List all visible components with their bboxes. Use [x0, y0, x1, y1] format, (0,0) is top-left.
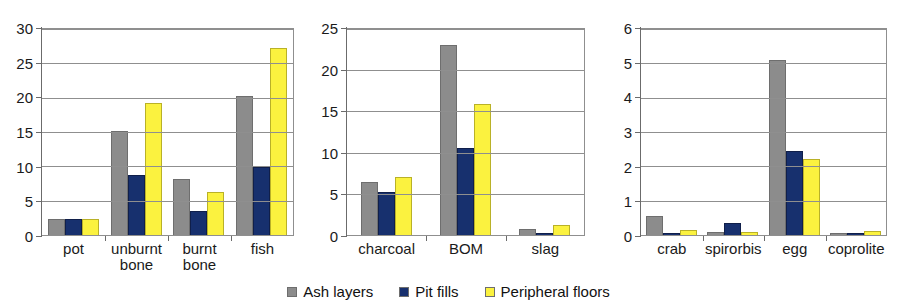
y-tick-mark — [36, 63, 41, 64]
bar — [190, 211, 207, 235]
x-axis-label: crab — [641, 241, 703, 257]
chart-panel-1: 051015202530 potunburnt boneburnt bonefi… — [0, 0, 305, 268]
x-axis-label: charcoal — [347, 241, 426, 257]
y-axis-line-1 — [41, 27, 42, 237]
gridline — [42, 29, 293, 30]
x-axis-label: egg — [764, 241, 826, 257]
bar — [48, 219, 65, 235]
y-tick-label: 3 — [624, 125, 632, 140]
bar — [830, 233, 847, 235]
bar — [646, 216, 663, 235]
x-axis-label: burnt bone — [168, 241, 231, 273]
bar-group — [505, 29, 584, 235]
bar — [270, 48, 287, 235]
y-tick-mark — [635, 167, 640, 168]
bar — [361, 182, 378, 235]
gridline — [641, 166, 886, 167]
gridline — [641, 201, 886, 202]
gridline — [641, 98, 886, 99]
y-tick-mark — [635, 97, 640, 98]
gridline — [347, 153, 584, 154]
y-tick-mark — [635, 236, 640, 237]
y-tick-label: 15 — [16, 125, 33, 140]
bar — [864, 231, 881, 235]
gridline — [641, 29, 886, 30]
y-tick-label: 2 — [624, 159, 632, 174]
bar — [65, 219, 82, 235]
legend-label: Ash layers — [303, 284, 373, 299]
legend-item: Peripheral floors — [485, 284, 610, 299]
legend-swatch-icon — [485, 287, 495, 297]
x-axis-labels-3: crabspirorbiseggcoprolite — [641, 241, 887, 257]
bar — [553, 225, 570, 235]
gridline — [641, 132, 886, 133]
gridline — [42, 98, 293, 99]
bar — [724, 223, 741, 235]
y-tick-mark — [36, 201, 41, 202]
legend-swatch-icon — [287, 287, 297, 297]
y-tick-mark — [341, 194, 346, 195]
bar — [536, 233, 553, 235]
bar — [173, 179, 190, 235]
plot-area-3 — [641, 28, 887, 236]
y-axis-line-2 — [346, 27, 347, 237]
x-axis-labels-2: charcoalBOMslag — [347, 241, 585, 257]
bar — [128, 175, 145, 235]
y-tick-label: 5 — [330, 187, 338, 202]
y-tick-mark — [36, 28, 41, 29]
y-tick-mark — [36, 132, 41, 133]
bar — [707, 232, 724, 235]
x-axis-label: BOM — [426, 241, 505, 257]
y-tick-label: 25 — [16, 55, 33, 70]
plot-wrap-1: 051015202530 — [42, 28, 294, 236]
x-axis-label: spirorbis — [703, 241, 765, 257]
chart-legend: Ash layersPit fillsPeripheral floors — [0, 284, 897, 299]
x-axis-labels-1: potunburnt boneburnt bonefish — [42, 241, 294, 273]
y-tick-label: 0 — [624, 229, 632, 244]
bar — [457, 148, 474, 235]
y-tick-label: 0 — [25, 229, 33, 244]
y-tick-mark — [341, 153, 346, 154]
legend-item: Pit fills — [399, 284, 458, 299]
y-tick-mark — [635, 63, 640, 64]
gridline — [347, 194, 584, 195]
gridline — [641, 63, 886, 64]
chart-panel-row: 051015202530 potunburnt boneburnt bonefi… — [0, 0, 897, 268]
gridline — [347, 111, 584, 112]
bar — [663, 233, 680, 235]
gridline — [42, 166, 293, 167]
y-tick-mark — [341, 70, 346, 71]
y-tick-label: 6 — [624, 21, 632, 36]
bar — [786, 151, 803, 235]
y-tick-label: 20 — [321, 62, 338, 77]
bar — [680, 230, 697, 235]
y-tick-label: 15 — [321, 104, 338, 119]
y-tick-label: 25 — [321, 21, 338, 36]
bar — [769, 60, 786, 235]
bar — [474, 104, 491, 235]
chart-panel-3: 0123456 crabspirorbiseggcoprolite — [605, 0, 897, 268]
bar-groups-2 — [347, 29, 584, 235]
gridline — [347, 70, 584, 71]
gridline — [42, 132, 293, 133]
gridline — [347, 29, 584, 30]
bar — [207, 192, 224, 235]
gridline — [42, 63, 293, 64]
x-axis-label: pot — [42, 241, 105, 273]
bar — [378, 192, 395, 235]
bar-group — [426, 29, 505, 235]
y-tick-label: 5 — [624, 55, 632, 70]
plot-wrap-3: 0123456 — [641, 28, 887, 236]
bar — [847, 233, 864, 235]
x-axis-label: fish — [231, 241, 294, 273]
y-tick-label: 1 — [624, 194, 632, 209]
y-tick-mark — [36, 97, 41, 98]
y-tick-mark — [36, 236, 41, 237]
y-tick-label: 20 — [16, 90, 33, 105]
bar — [803, 159, 820, 235]
x-axis-label: unburnt bone — [105, 241, 168, 273]
y-tick-mark — [341, 236, 346, 237]
y-tick-mark — [635, 201, 640, 202]
bar — [82, 219, 99, 235]
bar — [440, 45, 457, 235]
